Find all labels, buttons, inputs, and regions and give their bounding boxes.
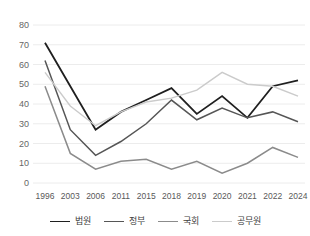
y-tick-label: 40 (19, 99, 29, 109)
line-chart-figure: 0102030405060708019962003200620112015201… (0, 0, 310, 236)
x-tick-label: 2006 (86, 191, 105, 201)
y-tick-label: 60 (19, 60, 29, 70)
y-tick-label: 70 (19, 40, 29, 50)
y-tick-label: 50 (19, 79, 29, 89)
legend-line-swatch (212, 221, 232, 222)
chart-legend: 법원정부국회공무원 (0, 209, 310, 233)
x-tick-label: 1996 (36, 191, 55, 201)
legend-label: 법원 (75, 217, 91, 226)
x-tick-label: 2021 (238, 191, 257, 201)
legend-label: 국회 (183, 217, 199, 226)
legend-line-swatch (158, 221, 178, 222)
y-tick-label: 80 (19, 20, 29, 30)
x-tick-label: 2015 (137, 191, 156, 201)
legend-item-3: 공무원 (212, 217, 261, 226)
x-tick-label: 2011 (112, 191, 131, 201)
x-tick-label: 2019 (187, 191, 206, 201)
y-tick-label: 20 (19, 139, 29, 149)
legend-line-swatch (104, 221, 124, 222)
y-tick-label: 30 (19, 119, 29, 129)
y-tick-label: 10 (19, 158, 29, 168)
line-chart-canvas: 0102030405060708019962003200620112015201… (0, 0, 310, 210)
y-tick-label: 0 (24, 178, 29, 188)
legend-line-swatch (50, 221, 70, 222)
legend-item-0: 법원 (50, 217, 91, 226)
x-tick-label: 2003 (61, 191, 80, 201)
x-tick-label: 2022 (263, 191, 282, 201)
x-tick-label: 2020 (213, 191, 232, 201)
x-tick-label: 2018 (162, 191, 181, 201)
legend-label: 공무원 (237, 217, 261, 226)
x-tick-label: 2024 (289, 191, 308, 201)
legend-label: 정부 (129, 217, 145, 226)
legend-item-1: 정부 (104, 217, 145, 226)
legend-item-2: 국회 (158, 217, 199, 226)
series-line-3 (45, 72, 298, 125)
